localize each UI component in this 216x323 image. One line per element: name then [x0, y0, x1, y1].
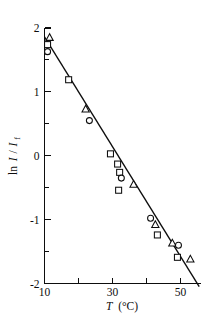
x-axis-title-symbol: T — [106, 300, 114, 312]
fit-line — [45, 37, 200, 287]
y-tick-label: 0 — [34, 150, 40, 162]
x-tick-labels: 103050 — [39, 286, 187, 298]
x-tick-label: 50 — [175, 286, 187, 298]
data-point-triangle — [187, 255, 194, 262]
y-tick-label: 1 — [34, 86, 40, 98]
data-point-circle — [175, 242, 181, 248]
data-point-square — [154, 232, 160, 238]
y-axis-title-ln: ln — [7, 166, 19, 175]
y-ticks-major — [45, 28, 51, 284]
x-axis-title-units: (°C) — [118, 300, 138, 313]
y-axis-title-subscript: f — [13, 137, 22, 140]
x-ticks-major — [45, 278, 181, 284]
y-tick-label: 2 — [34, 22, 40, 34]
fit-line-segment — [45, 37, 200, 287]
data-point-triangle — [46, 34, 53, 41]
data-point-square — [66, 77, 72, 83]
data-point-square — [174, 254, 180, 260]
x-tick-label: 10 — [39, 286, 51, 298]
figure-root: 103050 210-1-2 T (°C) ln I / I f — [0, 0, 216, 323]
y-tick-label: -2 — [30, 278, 40, 290]
data-point-square — [116, 187, 122, 193]
y-axis-title: ln I / I f — [7, 137, 22, 175]
data-point-circle — [86, 118, 92, 124]
y-axis-title-denominator: I — [7, 141, 19, 147]
data-point-square — [107, 151, 113, 157]
y-axis-title-slash: / — [7, 149, 19, 153]
y-tick-label: -1 — [30, 214, 40, 226]
y-tick-labels: 210-1-2 — [30, 22, 40, 290]
data-point-circle — [45, 49, 51, 55]
data-point-square — [117, 169, 123, 175]
x-tick-label: 30 — [107, 286, 119, 298]
data-point-circle — [148, 215, 154, 221]
data-point-square — [45, 42, 51, 48]
series-square-markers — [45, 42, 181, 261]
scatter-plot: 103050 210-1-2 T (°C) ln I / I f — [0, 0, 216, 323]
y-axis-title-numerator: I — [7, 156, 19, 162]
series-triangle-markers — [46, 34, 194, 262]
x-axis-title: T (°C) — [106, 300, 138, 313]
data-point-triangle — [152, 221, 159, 228]
data-point-square — [115, 161, 121, 167]
data-point-circle — [118, 175, 124, 181]
